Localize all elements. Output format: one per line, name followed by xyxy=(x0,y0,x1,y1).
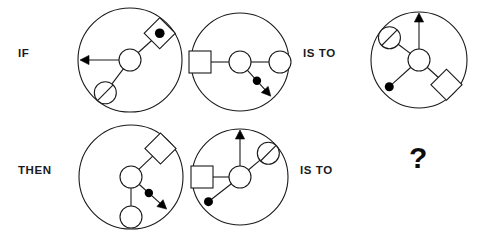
spoke-arrow-north xyxy=(414,13,423,50)
spoke-hatched-circle-northwest xyxy=(378,27,410,54)
spoke-line xyxy=(427,67,439,78)
panel-hub-circle xyxy=(229,51,251,73)
spoke-line xyxy=(398,44,411,54)
spoke-line xyxy=(248,160,260,170)
panel-hub-circle xyxy=(120,166,142,188)
spoke-arrow-southeast-with-dot xyxy=(139,184,167,209)
square-icon xyxy=(189,51,211,73)
panel-hub-circle xyxy=(119,49,141,71)
spoke-plain-circle-south xyxy=(120,188,142,229)
spoke-diamond-southeast xyxy=(427,67,462,100)
panel-then-right xyxy=(191,129,288,225)
midpoint-dot-icon xyxy=(145,189,153,197)
spoke-arrow-north xyxy=(235,130,244,167)
spoke-line xyxy=(138,40,152,53)
panel-then-left xyxy=(79,125,183,229)
spoke-dot-southwest xyxy=(385,67,411,91)
spoke-arrow-west xyxy=(80,55,120,64)
spoke-line xyxy=(139,156,153,170)
spoke-hatched-circle-southwest xyxy=(94,68,123,103)
spoke-diamond-northeast xyxy=(139,133,176,170)
spoke-plain-circle-east xyxy=(251,51,292,73)
panel-hub-circle xyxy=(408,49,430,71)
spoke-arrow-southeast-with-dot xyxy=(247,70,271,96)
plain-circle-icon xyxy=(120,206,142,228)
filled-dot-icon xyxy=(385,82,394,91)
spoke-square-west xyxy=(189,51,230,73)
spoke-hatched-circle-northeast xyxy=(248,142,279,170)
midpoint-dot-icon xyxy=(253,77,261,85)
spoke-line xyxy=(112,68,124,84)
spoke-line xyxy=(392,67,411,84)
panel-if-right xyxy=(189,13,291,111)
panel-if-left xyxy=(0,0,479,234)
panel-hub-circle xyxy=(229,166,251,188)
spoke-diamond-with-dot-northeast xyxy=(138,18,175,53)
spoke-square-west xyxy=(191,166,230,188)
puzzle-canvas: IF THEN IS TO IS TO ? xyxy=(0,0,479,234)
panel-is-to-top-answer xyxy=(371,12,467,108)
diamond-icon xyxy=(431,69,462,100)
arrow-head-icon xyxy=(235,130,244,139)
panel-if-left xyxy=(78,8,182,112)
arrow-head-icon xyxy=(80,55,89,64)
plain-circle-icon xyxy=(269,51,291,73)
spoke-line xyxy=(212,183,232,199)
square-icon xyxy=(191,166,213,188)
arrow-head-icon xyxy=(414,13,423,22)
diamond-inner-dot-icon xyxy=(155,28,165,38)
filled-dot-icon xyxy=(204,197,213,206)
